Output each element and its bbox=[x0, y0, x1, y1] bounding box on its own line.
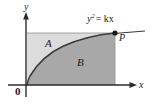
curve-equation-label: y2= kx bbox=[87, 13, 115, 24]
x-axis-label: x bbox=[139, 80, 143, 90]
math-figure: y x 0 A B P y2= kx bbox=[0, 0, 152, 109]
y-axis-arrow-icon bbox=[23, 12, 29, 20]
figure-canvas bbox=[0, 0, 152, 109]
equation-rest: = kx bbox=[95, 13, 115, 24]
y-axis-label: y bbox=[24, 2, 28, 12]
point-p-label: P bbox=[119, 33, 125, 43]
region-a-label: A bbox=[45, 38, 52, 49]
region-b-label: B bbox=[77, 57, 84, 68]
origin-label: 0 bbox=[15, 86, 21, 97]
point-p-marker bbox=[112, 30, 117, 35]
x-axis-arrow-icon bbox=[130, 82, 138, 88]
